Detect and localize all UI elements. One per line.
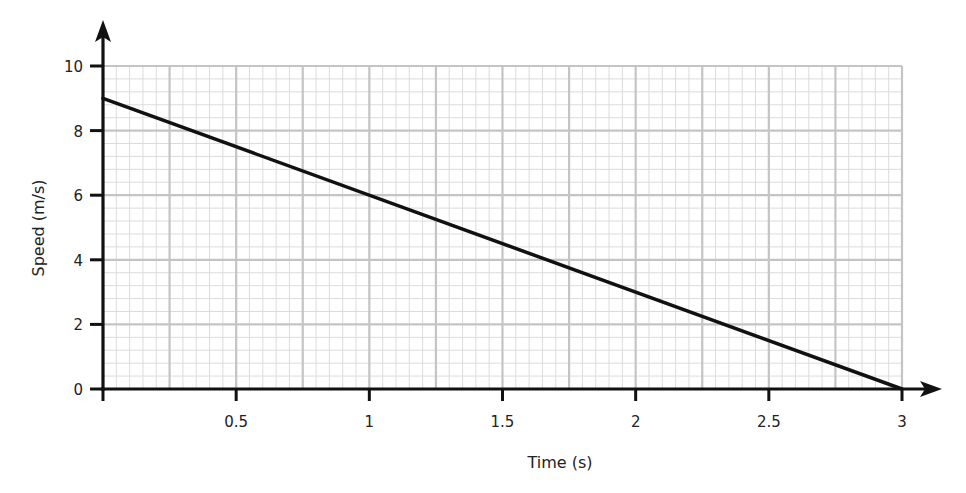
y-tick-label: 2 [73,316,83,334]
x-tick-label: 1 [365,413,375,431]
x-tick-label: 3 [897,413,907,431]
x-tick-label: 2.5 [757,413,781,431]
y-tick-label: 8 [73,123,83,141]
y-tick-label: 0 [73,381,83,399]
x-tick-label: 1.5 [491,413,515,431]
speed-time-chart: 0.511.522.53 0246810 Time (s) Speed (m/s… [0,0,966,493]
y-axis-title: Speed (m/s) [29,179,48,276]
y-tick-label: 6 [73,187,83,205]
x-axis-ticks: 0.511.522.53 [103,389,907,431]
x-tick-label: 0.5 [224,413,248,431]
x-tick-label: 2 [631,413,641,431]
x-axis-title: Time (s) [526,453,592,472]
y-tick-label: 10 [64,58,83,76]
y-tick-label: 4 [73,252,83,270]
y-axis-ticks: 0246810 [64,58,103,399]
